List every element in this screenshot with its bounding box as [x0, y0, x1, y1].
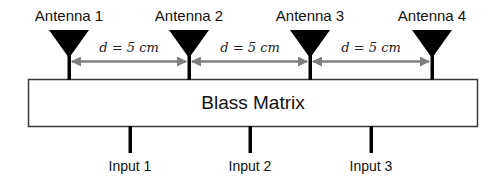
antenna-1-icon	[49, 30, 89, 80]
input-3-label: Input 3	[350, 159, 393, 173]
antenna-4-label: Antenna 4	[398, 8, 466, 23]
distance-label-1-2: d = 5 cm	[99, 41, 159, 54]
input-3-port	[370, 126, 374, 153]
antenna-4-icon	[412, 30, 452, 80]
antenna-3-label: Antenna 3	[276, 8, 344, 23]
distance-label-2-3: d = 5 cm	[220, 41, 280, 54]
input-1-port	[129, 126, 133, 153]
input-2-label: Input 2	[229, 159, 272, 173]
blass-matrix-diagram: Antenna 1 Antenna 2 Antenna 3 Antenna 4 …	[0, 0, 498, 184]
blass-matrix-label: Blass Matrix	[201, 93, 304, 112]
distance-label-3-4: d = 5 cm	[341, 41, 401, 54]
input-2-port	[249, 126, 253, 153]
input-1-label: Input 1	[109, 159, 152, 173]
antenna-2-label: Antenna 2	[155, 8, 223, 23]
antenna-3-icon	[290, 30, 330, 80]
antenna-2-icon	[169, 30, 209, 80]
antenna-1-label: Antenna 1	[35, 8, 103, 23]
